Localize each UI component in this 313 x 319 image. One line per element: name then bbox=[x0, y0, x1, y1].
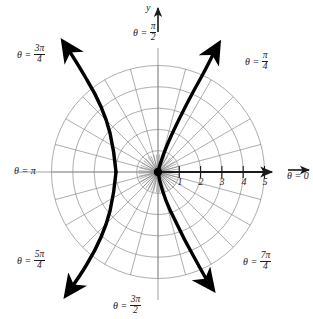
angle-label-theta-pi-2: θ = π 2 bbox=[133, 22, 156, 43]
angle-label-theta-3pi-2: θ = 3π 2 bbox=[113, 295, 141, 316]
angle-label-prefix: θ = bbox=[245, 56, 259, 67]
angle-label-prefix: θ = bbox=[243, 256, 257, 267]
fraction-denominator: 4 bbox=[34, 261, 46, 271]
angle-label-theta-pi-4: θ = π 4 bbox=[245, 51, 268, 72]
angle-label-theta-7pi-4: θ = 7π 4 bbox=[243, 251, 271, 272]
angle-label-fraction: π 2 bbox=[150, 22, 157, 43]
fraction-denominator: 2 bbox=[150, 33, 157, 43]
fraction-denominator: 4 bbox=[260, 262, 272, 272]
y-axis-label: y bbox=[146, 2, 150, 13]
angle-label-prefix: θ = bbox=[17, 49, 31, 60]
angle-label-fraction: 3π 2 bbox=[130, 295, 142, 316]
angle-label-fraction: π 4 bbox=[262, 51, 269, 72]
angle-label-fraction: 5π 4 bbox=[34, 250, 46, 271]
angle-label-theta-3pi-4: θ = 3π 4 bbox=[17, 44, 45, 65]
angle-label-prefix: θ = bbox=[287, 170, 301, 181]
x-tick-label-3: 3 bbox=[216, 176, 228, 187]
angle-label-theta-0: θ = 0 bbox=[287, 171, 309, 181]
x-tick-label-2: 2 bbox=[195, 176, 207, 187]
curve-left-branch-lower bbox=[67, 172, 116, 294]
fraction-denominator: 4 bbox=[34, 55, 46, 65]
fraction-denominator: 2 bbox=[130, 306, 142, 316]
x-tick-label-5: 5 bbox=[259, 176, 271, 187]
angle-label-fraction: 7π 4 bbox=[260, 251, 272, 272]
x-tick-label-4: 4 bbox=[238, 176, 250, 187]
x-tick-label-1: 1 bbox=[174, 176, 186, 187]
angle-label-theta-5pi-4: θ = 5π 4 bbox=[17, 250, 45, 271]
polar-graph-figure: y 1 2 3 4 5 θ = π 2 θ = π 4 θ = 3π 4 θ =… bbox=[0, 0, 313, 319]
angle-label-fraction: 3π 4 bbox=[34, 44, 46, 65]
angle-label-theta-pi: θ = π bbox=[14, 166, 36, 176]
angle-label-value: π bbox=[31, 165, 36, 176]
angle-label-prefix: θ = bbox=[17, 255, 31, 266]
angle-label-prefix: θ = bbox=[113, 300, 127, 311]
angle-label-prefix: θ = bbox=[133, 27, 147, 38]
curve-left-branch-upper bbox=[64, 43, 116, 172]
fraction-denominator: 4 bbox=[262, 62, 269, 72]
angle-label-prefix: θ = bbox=[14, 165, 28, 176]
angle-label-value: 0 bbox=[304, 170, 309, 181]
